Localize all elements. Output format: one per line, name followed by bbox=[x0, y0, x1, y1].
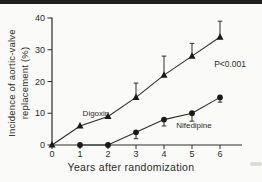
circle-marker bbox=[105, 142, 111, 148]
x-tick-label: 6 bbox=[217, 149, 222, 159]
x-tick-label: 5 bbox=[189, 149, 194, 159]
y-tick-label: 30 bbox=[35, 45, 45, 55]
x-tick-label: 4 bbox=[161, 149, 166, 159]
circle-marker bbox=[161, 117, 167, 123]
circle-marker bbox=[133, 129, 139, 135]
x-axis-label: Years after randomization bbox=[0, 161, 262, 173]
triangle-marker bbox=[217, 33, 224, 40]
series-nifedipine: Nifedipine bbox=[77, 94, 223, 147]
y-tick-label: 10 bbox=[35, 108, 45, 118]
series-label-digoxin: Digoxin bbox=[83, 109, 110, 118]
triangle-marker bbox=[133, 93, 140, 100]
circle-marker bbox=[189, 110, 195, 116]
figure: Incidence of aortic-valve replacement (%… bbox=[0, 0, 262, 182]
x-tick-label: 0 bbox=[49, 149, 54, 159]
triangle-marker bbox=[161, 71, 168, 78]
x-tick-label: 1 bbox=[77, 149, 82, 159]
y-tick-label: 40 bbox=[35, 13, 45, 23]
x-tick-label: 2 bbox=[105, 149, 110, 159]
x-tick-label: 3 bbox=[133, 149, 138, 159]
chart-plot: 0102030400123456DigoxinNifedipineP<0.001 bbox=[0, 0, 262, 182]
triangle-marker bbox=[49, 141, 56, 148]
y-tick-label: 0 bbox=[40, 140, 45, 150]
y-tick-label: 20 bbox=[35, 77, 45, 87]
p-value-annotation: P<0.001 bbox=[214, 59, 246, 69]
circle-marker bbox=[77, 142, 83, 148]
scan-artifact bbox=[250, 162, 262, 166]
triangle-marker bbox=[189, 52, 196, 59]
circle-marker bbox=[217, 94, 223, 100]
series-label-nifedipine: Nifedipine bbox=[176, 121, 212, 130]
